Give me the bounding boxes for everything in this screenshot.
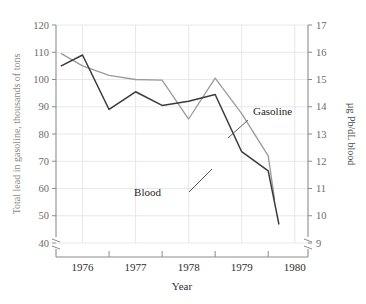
series-line-blood [61,55,279,224]
x-axis-labels: 19761977197819791980 [72,261,307,273]
y-axis-right-title: µg Pb/dL blood [346,103,357,166]
y-tick-label-left: 100 [33,74,49,85]
series-annotation-blood: Blood [134,186,161,198]
y-tick-label-right: 13 [316,129,327,140]
y-tick-label-left: 90 [39,101,50,112]
y-tick-label-right: 12 [316,156,327,167]
y-tick-label-right: 17 [316,20,327,31]
y-tick-label-left: 110 [34,47,49,58]
axis-lines [52,25,312,257]
y-tick-label-left: 80 [39,129,50,140]
x-tick-label: 1980 [284,261,307,273]
axis-break-right-icon [304,239,312,249]
axis-break-left-icon [52,239,60,249]
y-tick-label-right: 14 [316,101,327,112]
y-tick-label-right: 11 [316,183,326,194]
chart-container: 405060708090100110120 91011121314151617 … [0,0,366,304]
y-tick-label-right: 16 [316,47,327,58]
tick-marks [52,25,312,257]
x-tick-label: 1979 [231,261,254,273]
x-tick-label: 1978 [178,261,201,273]
y-axis-right-labels: 91011121314151617 [316,20,327,249]
lead-line-chart: 405060708090100110120 91011121314151617 … [0,0,366,304]
axis-titles: Total lead in gasoline, thousands of ton… [11,54,357,292]
x-tick-label: 1976 [72,261,95,273]
y-tick-label-right: 9 [316,238,321,249]
y-tick-label-right: 10 [316,210,327,221]
y-tick-label-right: 15 [316,74,327,85]
y-axis-left-title: Total lead in gasoline, thousands of ton… [11,54,22,215]
x-tick-label: 1977 [125,261,148,273]
y-tick-label-left: 70 [39,156,50,167]
series-annotations: GasolineBlood [134,105,292,198]
y-axis-left-labels: 405060708090100110120 [33,20,49,249]
y-tick-label-left: 120 [33,20,49,31]
x-axis-title: Year [172,280,193,292]
series-annotation-gasoline: Gasoline [253,105,292,117]
y-tick-label-left: 60 [39,183,50,194]
y-tick-label-left: 50 [39,210,50,221]
grid-lines [56,25,308,243]
y-tick-label-left: 40 [39,238,50,249]
